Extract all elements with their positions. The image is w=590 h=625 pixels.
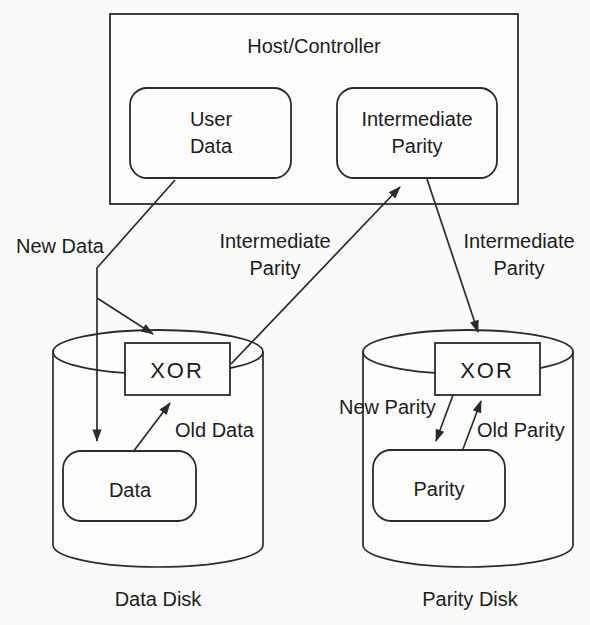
old-parity-label: Old Parity <box>477 419 565 441</box>
intermediate-parity-box <box>337 88 497 178</box>
user-data-label-line1: User <box>190 108 233 130</box>
data-disk-xor-label: XOR <box>150 358 204 383</box>
intermediate-parity-label-line1: Intermediate <box>361 108 472 130</box>
intermediate-parity-left-label-line2: Parity <box>249 257 300 279</box>
user-data-box <box>130 88 291 178</box>
intermediate-parity-label-line2: Parity <box>391 135 442 157</box>
data-disk-caption: Data Disk <box>115 588 203 610</box>
new-parity-label: New Parity <box>339 396 436 418</box>
diagram-svg: Host/Controller User Data Intermediate P… <box>0 0 590 625</box>
new-data-label: New Data <box>16 235 105 257</box>
intermediate-parity-left-label-line1: Intermediate <box>219 230 330 252</box>
intermediate-parity-right-label-line2: Parity <box>493 257 544 279</box>
user-data-label-line2: Data <box>190 135 233 157</box>
intermediate-parity-right-label-line1: Intermediate <box>463 230 574 252</box>
parity-block-label: Parity <box>413 478 464 500</box>
parity-disk-xor-label: XOR <box>460 358 514 383</box>
parity-disk-caption: Parity Disk <box>422 588 519 610</box>
raid-parity-update-diagram: Host/Controller User Data Intermediate P… <box>0 0 590 625</box>
new-data-to-xor-arrow <box>97 298 153 334</box>
data-block-label: Data <box>109 479 152 501</box>
host-controller-title: Host/Controller <box>247 35 381 57</box>
old-data-label: Old Data <box>175 419 255 441</box>
